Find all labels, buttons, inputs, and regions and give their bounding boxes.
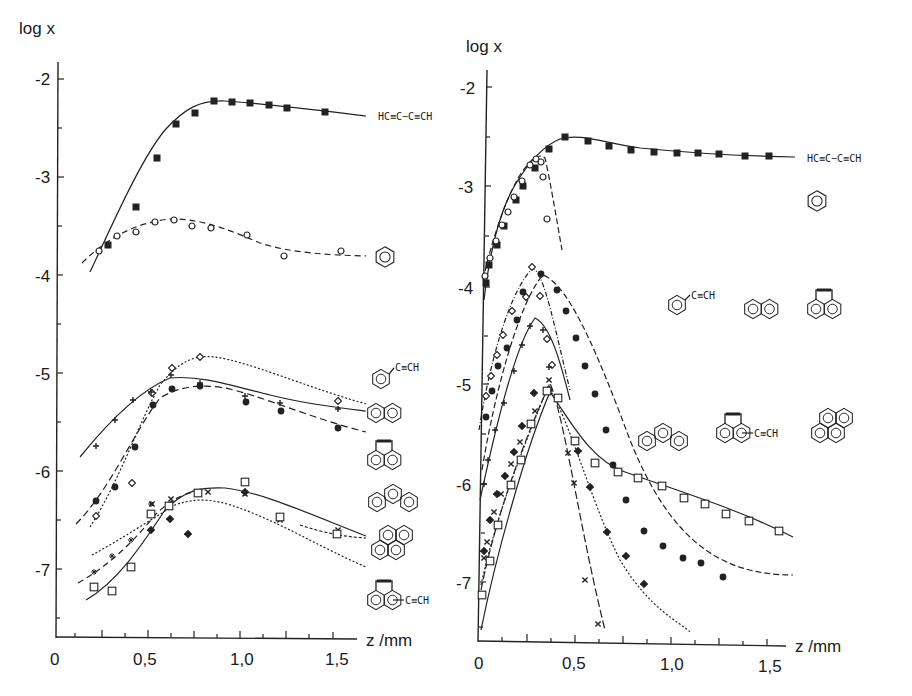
naphthalene-structure-icon-r <box>745 299 778 318</box>
curve-naphthalene-r <box>480 318 570 500</box>
benzene-structure-icon-r <box>808 191 826 211</box>
right-legend: HC≡C−C≡CH C≡CH <box>639 153 862 451</box>
curve-benzene-r <box>483 156 562 280</box>
phenanthrene-structure-icon-r <box>639 423 688 450</box>
curve-pyrene-r <box>481 387 690 632</box>
naphthalene-structure-icon <box>368 403 401 422</box>
ethynyl-acenaphthylene-structure-icon: C≡CH <box>368 581 429 610</box>
ytick-label: -3 <box>458 178 473 197</box>
xtick-label: 1,5 <box>758 657 782 676</box>
xtick-label: 1,0 <box>660 655 684 674</box>
curve-diacetylene <box>90 101 366 272</box>
pyrene-structure-icon <box>372 525 413 559</box>
ytick-label: -7 <box>456 574 471 593</box>
ytick-label: -2 <box>460 79 475 98</box>
xtick-label: 0,5 <box>562 654 586 673</box>
acenaphthylene-structure-icon <box>368 441 401 470</box>
curve-benzene <box>82 219 366 263</box>
curve-star-series <box>78 490 205 583</box>
right-panel: log x -2 -3 -4 -5 -6 -7 0 0,5 1,0 1,5 z … <box>456 37 861 676</box>
ytick-label: -5 <box>456 376 471 395</box>
left-legend: HC≡C−C≡CH C≡CH <box>368 111 433 610</box>
left-y-axis-label: log x <box>19 19 55 38</box>
ytick-label: -5 <box>35 365 50 384</box>
right-markers <box>482 137 779 624</box>
legend-diacetylene-formula-r: HC≡C−C≡CH <box>807 153 861 164</box>
svg-text:C≡CH: C≡CH <box>395 362 419 373</box>
curve-phenanthrene <box>86 488 366 600</box>
ytick-label: -3 <box>35 168 50 187</box>
curve-phenylacetylene-r <box>479 268 570 430</box>
pyrene-structure-icon-r <box>812 408 853 442</box>
curve-acenaphthylene <box>76 386 366 524</box>
right-x-axis-label: z /mm <box>795 637 841 656</box>
left-x-axis-label: z /mm <box>366 631 412 650</box>
xtick-label: 1,0 <box>230 650 254 669</box>
ytick-label: -4 <box>458 279 473 298</box>
curve-acenaphthylene-r <box>482 275 793 575</box>
svg-text:C≡CH: C≡CH <box>754 428 778 439</box>
xtick-label: 1,5 <box>325 650 349 669</box>
legend-diacetylene-formula: HC≡C−C≡CH <box>378 111 432 122</box>
ytick-label: -4 <box>35 267 50 286</box>
benzene-structure-icon <box>376 247 394 267</box>
ethynyl-acenaphthylene-structure-icon-r: C≡CH <box>717 414 778 443</box>
curve-ethynyl-acenaphthylene-r <box>481 392 793 630</box>
ytick-label: -2 <box>35 70 50 89</box>
ytick-label: -7 <box>35 561 50 580</box>
curve-naphthalene <box>80 377 366 457</box>
svg-text:C≡CH: C≡CH <box>691 290 715 301</box>
curve-pyrene <box>92 500 366 567</box>
xtick-label: 0,5 <box>133 650 157 669</box>
acenaphthylene-structure-icon-r <box>808 290 841 319</box>
left-panel: log x -2 -3 -4 -5 -6 -7 0 0,5 1,0 <box>19 19 432 669</box>
phenylacetylene-structure-icon: C≡CH <box>373 362 419 389</box>
chart-figure: log x -2 -3 -4 -5 -6 -7 0 0,5 1,0 <box>0 0 912 696</box>
ytick-label: -6 <box>456 476 471 495</box>
svg-text:C≡CH: C≡CH <box>405 595 429 606</box>
phenanthrene-structure-icon <box>369 484 418 511</box>
ytick-label: -6 <box>35 463 50 482</box>
curve-phenanthrene-r <box>481 383 605 630</box>
xtick-label: 0 <box>50 650 59 669</box>
left-markers <box>94 101 341 591</box>
xtick-label: 0 <box>474 654 483 673</box>
right-y-axis-label: log x <box>466 37 502 56</box>
phenylacetylene-structure-icon-r: C≡CH <box>669 290 715 315</box>
